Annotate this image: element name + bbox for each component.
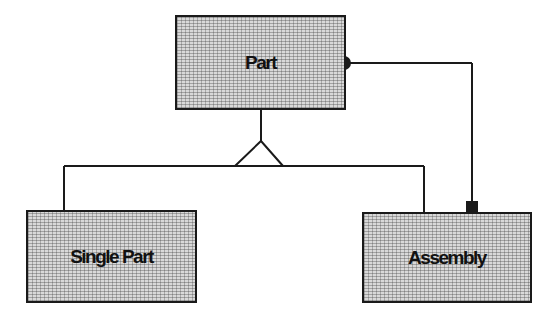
entity-assembly[interactable]: Assembly xyxy=(362,212,532,303)
entity-part[interactable]: Part xyxy=(175,15,346,110)
entity-label: Single Part xyxy=(70,246,153,268)
diagram-canvas: Part Single Part Assembly xyxy=(0,0,557,314)
generalization-triangle-icon xyxy=(235,141,283,166)
entity-label: Assembly xyxy=(408,247,486,269)
entity-label: Part xyxy=(245,52,276,74)
entity-single-part[interactable]: Single Part xyxy=(26,210,197,303)
